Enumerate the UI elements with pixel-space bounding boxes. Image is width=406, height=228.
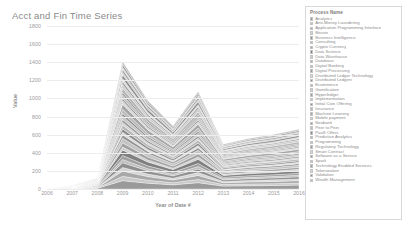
legend-swatch-icon [310,22,313,25]
legend-swatch-icon [310,60,313,63]
x-axis-title: Year of Date # [47,202,299,208]
legend-swatch-icon [310,93,313,96]
x-tick-label: 2006 [41,190,53,196]
legend-swatch-icon [310,155,313,158]
legend-swatch-icon [310,107,313,110]
page-title: Acct and Fin Time Series [12,10,122,21]
x-tick-label: 2007 [66,190,78,196]
x-tick-label: 2012 [192,190,204,196]
legend-swatch-icon [310,65,313,68]
legend-swatch-icon [310,88,313,91]
legend-swatch-icon [310,136,313,139]
y-tick-label: 600 [32,132,41,138]
chart-page: Acct and Fin Time Series Value 020040060… [0,0,406,228]
x-tick-label: 2008 [92,190,104,196]
y-tick-label: 200 [32,168,41,174]
legend-swatch-icon [310,145,313,148]
legend-swatch-icon [310,174,313,177]
legend-swatch-icon [310,169,313,172]
legend-swatch-icon [310,79,313,82]
legend-swatch-icon [310,98,313,101]
legend-swatch-icon [310,46,313,49]
x-tick-label: 2014 [243,190,255,196]
x-tick-label: 2009 [117,190,129,196]
gridline [47,171,299,172]
y-tick-label: 1200 [29,77,41,83]
legend-item[interactable]: Wealth Management [310,178,398,183]
legend-swatch-icon [310,179,313,182]
gridline [47,44,299,45]
legend-swatch-icon [310,50,313,53]
legend-swatch-icon [310,131,313,134]
y-tick-label: 1600 [29,41,41,47]
legend-swatch-icon [310,103,313,106]
legend-item-label: Wealth Management [315,178,355,183]
legend-swatch-icon [310,122,313,125]
x-tick-label: 2010 [142,190,154,196]
legend-swatch-icon [310,117,313,120]
legend-swatch-icon [310,141,313,144]
plot-wrap [47,26,299,189]
legend-swatch-icon [310,74,313,77]
gridline [47,153,299,154]
legend-swatch-icon [310,69,313,72]
y-tick-label: 800 [32,114,41,120]
legend-swatch-icon [310,160,313,163]
legend-swatch-icon [310,17,313,20]
y-tick-label: 1400 [29,59,41,65]
legend-swatch-icon [310,31,313,34]
legend-swatch-icon [310,164,313,167]
legend-swatch-icon [310,84,313,87]
gridline [47,98,299,99]
legend-panel[interactable]: Process Name AnalyticsAnti-Money Launder… [305,6,402,220]
legend-swatch-icon [310,36,313,39]
legend-swatch-icon [310,41,313,44]
y-tick-label: 400 [32,150,41,156]
gridline [47,80,299,81]
gridline [47,62,299,63]
legend-list: AnalyticsAnti-Money LaunderingApplicatio… [310,17,398,183]
x-tick-label: 2016 [293,190,305,196]
legend-swatch-icon [310,27,313,30]
plot-area [47,26,299,189]
y-axis-ticks: 020040060080010001200140016001800 [0,26,45,189]
y-tick-label: 1000 [29,95,41,101]
legend-swatch-icon [310,126,313,129]
y-tick-label: 1800 [29,23,41,29]
x-axis-ticks: 2006200720082009201020112012201320142015… [47,190,299,200]
x-tick-label: 2013 [218,190,230,196]
gridline [47,26,299,27]
gridline [47,117,299,118]
stacked-area-svg [47,26,299,189]
x-tick-label: 2015 [268,190,280,196]
legend-swatch-icon [310,55,313,58]
x-tick-label: 2011 [167,190,178,196]
legend-swatch-icon [310,112,313,115]
legend-title: Process Name [310,10,398,15]
legend-swatch-icon [310,150,313,153]
gridline [47,135,299,136]
